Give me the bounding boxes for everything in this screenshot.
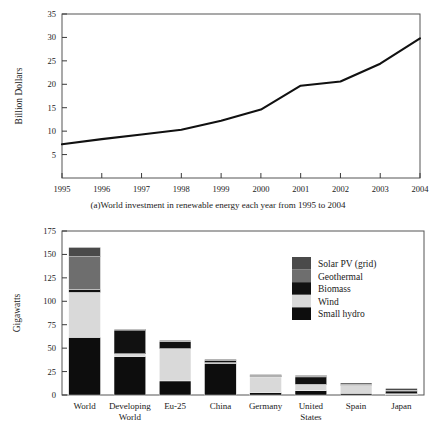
bar-segment [295,384,327,390]
legend-label: Geothermal [318,272,363,282]
y-tick-label: 75 [48,320,57,330]
bar-segment [114,330,146,354]
bar-segment [114,329,146,330]
bar-segment [340,383,372,384]
y-tick-label: 5 [52,150,56,160]
bar-segment [250,393,282,395]
x-category-label: Eu-25 [164,401,186,411]
y-tick-label: 100 [43,296,56,306]
x-tick-label: 1998 [173,184,190,194]
investment-line-series [62,38,420,144]
x-category-label: Spain [346,401,367,411]
legend-swatch [292,282,311,295]
bar-segment [69,337,101,395]
x-tick-label: 2004 [412,184,430,194]
plot-frame [62,14,420,178]
bar-segment [69,247,101,256]
bar-segment [114,354,146,357]
x-category-label: World [119,412,142,422]
bar-chart-panel-b: 0255075100125150175GigawattsWorldDevelop… [0,215,436,430]
y-tick-label: 175 [43,226,56,236]
bar-segment [159,341,191,348]
bar-segment [386,388,418,390]
bar-segment [69,290,101,293]
x-category-label: Japan [391,401,412,411]
legend-label: Wind [318,297,339,307]
bar-segment [205,359,237,360]
x-tick-label: 1996 [93,184,110,194]
bar-segment [295,377,327,384]
bar-segment [340,385,372,393]
bar-segment [69,257,101,290]
y-tick-label: 10 [48,126,57,136]
bar-segment [205,363,237,395]
legend-label: Biomass [318,284,351,294]
y-tick-label: 50 [48,343,57,353]
y-tick-label: 35 [48,9,57,19]
legend-swatch [292,270,311,283]
y-tick-label: 150 [43,249,56,259]
bar-segment [159,340,191,341]
bar-segment [295,391,327,395]
line-chart-svg: 5101520253035199519961997199819992000200… [0,0,436,215]
y-axis-title: Gigawatts [12,293,22,332]
legend-label: Small hydro [318,309,365,319]
y-tick-label: 15 [48,103,57,113]
bar-segment [250,375,282,376]
bar-segment [250,377,282,393]
y-tick-label: 25 [48,367,57,377]
legend-swatch [292,307,311,320]
y-tick-label: 25 [48,56,57,66]
bar-segment [69,292,101,337]
x-tick-label: 1995 [54,184,71,194]
bar-segment [295,375,327,376]
x-category-label: United [299,401,324,411]
x-tick-label: 1997 [133,184,150,194]
legend-swatch [292,257,311,270]
x-tick-label: 1999 [213,184,230,194]
x-category-label: Developing [109,401,151,411]
y-axis-title: Billion Dollars [14,67,24,124]
x-tick-label: 2000 [252,184,269,194]
x-category-label: Germany [249,401,283,411]
bar-segment [340,393,372,395]
y-tick-label: 20 [48,79,57,89]
panel-a-caption: (a)World investment in renewable energy … [90,200,346,210]
legend-swatch [292,295,311,308]
bar-segment [159,349,191,381]
y-tick-label: 125 [43,273,56,283]
y-tick-label: 30 [48,32,57,42]
x-tick-label: 2003 [372,184,389,194]
x-category-label: States [300,412,322,422]
bar-segment [159,381,191,395]
y-tick-label: 0 [52,390,56,400]
x-tick-label: 2002 [332,184,349,194]
x-category-label: World [73,401,96,411]
bar-chart-svg: 0255075100125150175GigawattsWorldDevelop… [0,215,436,430]
x-tick-label: 2001 [292,184,309,194]
x-category-label: China [210,401,232,411]
legend-label: Solar PV (grid) [318,259,376,270]
line-chart-panel-a: 5101520253035199519961997199819992000200… [0,0,436,215]
bar-segment [114,357,146,395]
